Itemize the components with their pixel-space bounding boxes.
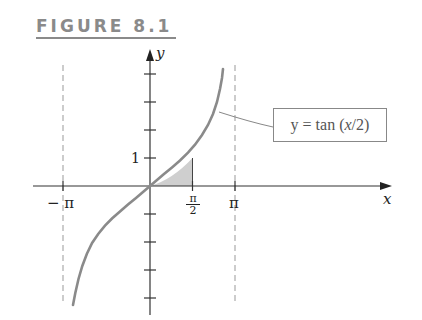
x-axis-label: x: [383, 190, 391, 208]
legend-leader-line: [219, 112, 273, 127]
y-tick-label-1: 1: [131, 150, 140, 166]
legend-box: y = tan (x/2): [273, 108, 387, 142]
legend-prefix: y = tan (: [291, 116, 345, 134]
half-pi-denominator: 2: [186, 205, 200, 216]
y-axis-arrow-icon: [146, 49, 154, 61]
x-tick-label-neg-pi: − π: [47, 194, 74, 212]
plot: [0, 0, 422, 320]
legend-suffix: /2): [352, 116, 370, 134]
x-axis-arrow-icon: [380, 182, 392, 190]
y-axis-label: y: [156, 44, 164, 62]
x-tick-label-pi: π: [229, 194, 239, 212]
x-tick-label-half-pi: π 2: [186, 193, 200, 216]
legend-var: x: [345, 116, 352, 134]
